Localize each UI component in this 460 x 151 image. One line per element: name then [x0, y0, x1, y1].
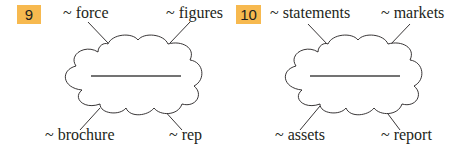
collocation-top-right: ~ markets: [381, 4, 444, 22]
pointer-line-top-right: [390, 24, 410, 45]
collocation-top-left: ~ statements: [270, 4, 350, 22]
collocation-top-left: ~ force: [63, 4, 109, 22]
cloud-shape: [65, 35, 202, 115]
collocation-bottom-right: ~ rep: [169, 126, 202, 144]
pointer-line-top-left: [308, 24, 328, 45]
cloud-shape: [285, 35, 422, 115]
collocation-bottom-left: ~ brochure: [45, 126, 115, 144]
word-cloud-exercise-9: 9 ~ force ~ figures ~ brochure ~ rep: [0, 0, 230, 151]
pointer-line-top-right: [170, 22, 190, 43]
collocation-bottom-right: ~ report: [381, 126, 432, 144]
word-cloud-exercise-10: 10 ~ statements ~ markets ~ assets ~ rep…: [230, 0, 460, 151]
pointer-line-top-left: [88, 22, 108, 43]
exercise-number-badge: 9: [17, 5, 41, 24]
exercise-number-badge: 10: [236, 5, 261, 24]
collocation-bottom-left: ~ assets: [275, 126, 325, 144]
collocation-top-right: ~ figures: [166, 4, 223, 22]
